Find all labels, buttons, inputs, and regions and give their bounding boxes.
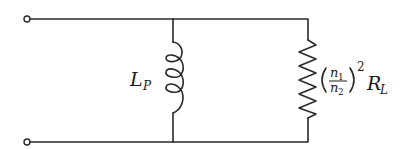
top-terminal xyxy=(24,16,30,22)
bottom-terminal xyxy=(24,139,30,145)
inductor-label: L P xyxy=(129,68,152,93)
circuit-diagram: L P n 1 n 2 2 R L xyxy=(0,0,420,149)
inductor xyxy=(166,19,183,142)
svg-text:2: 2 xyxy=(338,87,344,97)
svg-text:L: L xyxy=(379,83,388,97)
svg-text:P: P xyxy=(142,79,152,93)
resistor-label: n 1 n 2 2 R L xyxy=(322,60,388,97)
svg-text:L: L xyxy=(129,68,143,90)
top-wire xyxy=(30,19,308,40)
svg-text:2: 2 xyxy=(357,60,365,74)
resistor xyxy=(299,40,316,118)
bottom-wire xyxy=(30,118,308,142)
